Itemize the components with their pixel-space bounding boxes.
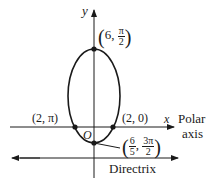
label-bottom-point: (65, 3π2) xyxy=(122,136,161,157)
origin-label: O xyxy=(83,129,92,141)
leader-line xyxy=(94,143,120,148)
point-right xyxy=(110,124,115,129)
polar-axis-label-1: Polar xyxy=(178,112,205,125)
label-top-point: (6, π2) xyxy=(98,26,131,47)
label-left-point: (2, π) xyxy=(32,112,58,124)
polar-axis-label-2: axis xyxy=(182,127,203,140)
label-right-point: (2, 0) xyxy=(122,112,148,124)
y-axis-label: y xyxy=(82,4,88,17)
point-left xyxy=(72,124,77,129)
point-top xyxy=(91,46,96,51)
x-axis-label: x xyxy=(164,113,169,125)
directrix-label: Directrix xyxy=(109,162,156,175)
